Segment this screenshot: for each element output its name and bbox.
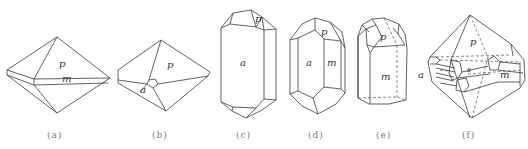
- face-label-s: s: [467, 65, 471, 74]
- face-label-p: p: [167, 59, 174, 70]
- face-label-a: a: [240, 57, 246, 68]
- face-label-p: p: [321, 26, 328, 37]
- face-label-a: a: [140, 84, 146, 95]
- crystal-c: p a: [221, 10, 276, 118]
- face-label-a: a: [418, 69, 424, 80]
- crystal-a: p m: [7, 37, 110, 113]
- crystal-b: p a: [118, 40, 210, 111]
- face-label-m: m: [62, 73, 71, 84]
- face-label-m: m: [500, 69, 509, 80]
- caption-a: (a): [47, 130, 62, 140]
- caption-d: (d): [308, 130, 324, 140]
- face-label-p: p: [255, 13, 262, 24]
- face-label-m: m: [381, 71, 390, 82]
- face-label-p: p: [59, 58, 66, 69]
- crystal-drawings: p m p a: [0, 0, 528, 149]
- face-label-p: p: [380, 31, 387, 42]
- caption-c: (c): [236, 130, 251, 140]
- caption-b: (b): [152, 130, 168, 140]
- face-label-a: a: [306, 57, 312, 68]
- caption-e: (e): [376, 130, 391, 140]
- caption-f: (f): [462, 130, 475, 140]
- face-label-p: p: [470, 36, 477, 47]
- crystal-d: p a m: [290, 18, 345, 114]
- crystal-e: p m: [358, 18, 407, 104]
- crystal-f: p a m s: [418, 15, 525, 118]
- face-label-m: m: [327, 57, 336, 68]
- crystal-habit-figure: p m p a: [0, 0, 528, 149]
